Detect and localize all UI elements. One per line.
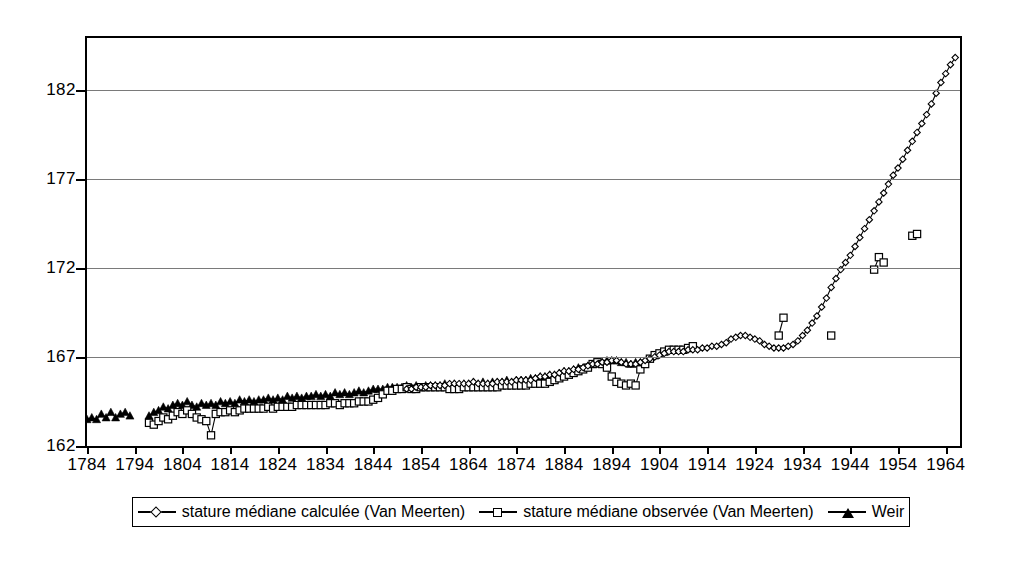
- data-point: [890, 172, 896, 178]
- data-point: [842, 259, 848, 265]
- x-tick-label: 1904: [640, 455, 679, 475]
- x-tick-label: 1834: [306, 455, 345, 475]
- data-point: [952, 54, 958, 60]
- data-point: [923, 111, 929, 117]
- y-tick-mark-162: [76, 446, 85, 448]
- data-point: [933, 90, 939, 96]
- legend-label: Weir: [872, 503, 905, 521]
- data-point: [914, 129, 920, 135]
- y-tick-mark-167: [76, 357, 85, 359]
- data-point: [121, 408, 129, 415]
- data-point: [775, 332, 782, 339]
- legend-marker-square-icon: [479, 505, 517, 519]
- x-tick-mark-1824: [278, 446, 280, 454]
- x-tick-label: 1874: [497, 455, 536, 475]
- data-point: [828, 284, 834, 290]
- data-point: [833, 275, 839, 281]
- data-point: [857, 234, 863, 240]
- y-tick-mark-177: [76, 179, 85, 181]
- x-tick-mark-1844: [373, 446, 375, 454]
- data-point: [809, 320, 815, 326]
- data-point: [904, 147, 910, 153]
- x-tick-label: 1854: [401, 455, 440, 475]
- data-point: [947, 62, 953, 68]
- data-point: [107, 408, 115, 415]
- gridline-y-172: [87, 268, 960, 269]
- x-tick-label: 1864: [449, 455, 488, 475]
- data-point: [780, 314, 787, 321]
- x-tick-mark-1804: [182, 446, 184, 454]
- gridline-y-177: [87, 179, 960, 180]
- y-tick-mark-182: [76, 90, 85, 92]
- x-tick-label: 1844: [354, 455, 393, 475]
- x-tick-mark-1784: [87, 446, 89, 454]
- x-tick-mark-1834: [326, 446, 328, 454]
- x-tick-mark-1894: [612, 446, 614, 454]
- data-point: [913, 230, 920, 237]
- gridline-y-167: [87, 357, 960, 358]
- chart-container: 162167172177182 stature médiane calculée…: [0, 0, 1014, 562]
- gridline-y-182: [87, 90, 960, 91]
- legend-entry-2[interactable]: stature médiane observée (Van Meerten): [472, 503, 821, 521]
- y-tick-label: 162: [46, 436, 76, 456]
- x-tick-mark-1934: [803, 446, 805, 454]
- data-point: [818, 304, 824, 310]
- x-tick-mark-1944: [850, 446, 852, 454]
- data-point: [919, 120, 925, 126]
- plot-svg: [87, 38, 960, 446]
- series-line: [407, 58, 956, 389]
- data-point: [895, 165, 901, 171]
- x-tick-mark-1864: [469, 446, 471, 454]
- diamond-icon: [150, 506, 161, 517]
- legend-marker-triangle-icon: [828, 505, 866, 519]
- data-point: [885, 181, 891, 187]
- x-tick-label: 1954: [878, 455, 917, 475]
- x-tick-mark-1814: [230, 446, 232, 454]
- x-tick-label: 1784: [67, 455, 106, 475]
- data-point: [814, 313, 820, 319]
- series-diamond: [403, 54, 958, 392]
- data-point: [847, 252, 853, 258]
- triangle-icon: [842, 508, 854, 518]
- x-tick-label: 1944: [831, 455, 870, 475]
- data-point: [632, 382, 639, 389]
- data-point: [928, 101, 934, 107]
- x-tick-mark-1924: [755, 446, 757, 454]
- x-tick-label: 1804: [163, 455, 202, 475]
- data-point: [183, 397, 191, 404]
- x-tick-mark-1884: [564, 446, 566, 454]
- x-tick-label: 1884: [545, 455, 584, 475]
- x-tick-mark-1914: [707, 446, 709, 454]
- data-point: [942, 70, 948, 76]
- data-point: [823, 295, 829, 301]
- x-tick-mark-1874: [516, 446, 518, 454]
- y-tick-mark-172: [76, 268, 85, 270]
- y-tick-label: 172: [46, 258, 76, 278]
- x-tick-mark-1954: [898, 446, 900, 454]
- data-point: [861, 225, 867, 231]
- legend-label: stature médiane calculée (Van Meerten): [182, 503, 465, 521]
- x-tick-label: 1824: [258, 455, 297, 475]
- y-tick-label: 177: [46, 169, 76, 189]
- chart-legend: stature médiane calculée (Van Meerten)st…: [132, 497, 910, 527]
- x-tick-mark-1854: [421, 446, 423, 454]
- data-point: [900, 156, 906, 162]
- legend-marker-diamond-icon: [138, 505, 176, 519]
- legend-entry-3[interactable]: Weir: [821, 503, 912, 521]
- data-point: [876, 199, 882, 205]
- y-axis-labels: 162167172177182: [0, 0, 76, 562]
- x-tick-label: 1894: [592, 455, 631, 475]
- x-tick-label: 1914: [688, 455, 727, 475]
- x-tick-mark-1964: [946, 446, 948, 454]
- x-tick-label: 1794: [115, 455, 154, 475]
- data-point: [909, 138, 915, 144]
- legend-label: stature médiane observée (Van Meerten): [523, 503, 814, 521]
- square-icon: [493, 508, 502, 517]
- x-tick-label: 1814: [211, 455, 250, 475]
- data-point: [871, 208, 877, 214]
- x-tick-mark-1794: [135, 446, 137, 454]
- data-point: [828, 332, 835, 339]
- y-tick-label: 182: [46, 80, 76, 100]
- data-point: [203, 417, 210, 424]
- legend-entry-1[interactable]: stature médiane calculée (Van Meerten): [131, 503, 472, 521]
